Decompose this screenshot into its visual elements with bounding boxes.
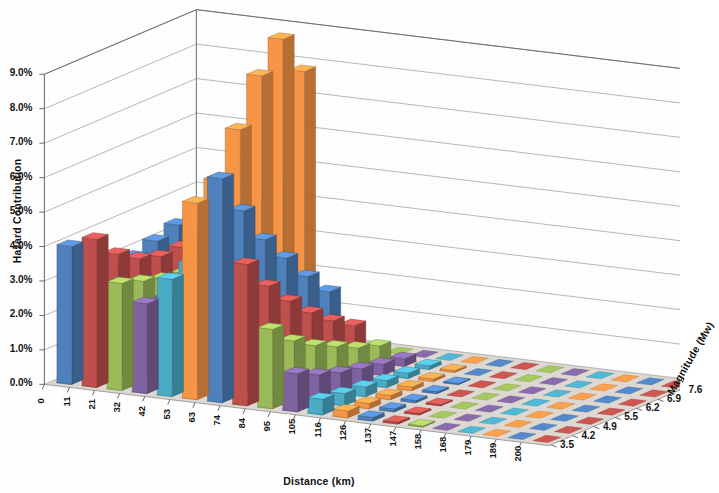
x-axis-tick <box>218 406 220 411</box>
column-bar <box>82 233 108 388</box>
z-axis-tick-label: 4.9 <box>603 421 617 432</box>
x-axis-title: Distance (km) <box>239 475 399 487</box>
bar-front-face <box>157 278 172 397</box>
x-axis-tick <box>92 390 94 395</box>
column-bar <box>57 240 83 384</box>
y-axis-tick-label: 6.0% <box>0 171 32 182</box>
x-axis-tick-label: 200 <box>512 446 523 462</box>
x-axis-tick-label: 105 <box>286 418 297 434</box>
bar-side-face <box>298 369 309 412</box>
y-axis-tick-label: 2.0% <box>0 308 32 319</box>
bar-side-face <box>172 275 183 397</box>
y-axis-tick-label: 3.0% <box>0 274 32 285</box>
x-axis-tick <box>243 409 245 414</box>
bar-side-face <box>72 242 83 385</box>
z-axis-tick-label: 5.5 <box>624 411 638 422</box>
z-axis-tick <box>615 417 621 419</box>
x-axis-tick-label: 74 <box>211 415 222 426</box>
column-bar <box>208 172 234 402</box>
x-axis-tick-label: 189 <box>487 443 498 459</box>
z-axis-tick <box>551 445 557 447</box>
bar-front-face <box>182 201 197 399</box>
y-axis-tick-label: 8.0% <box>0 102 32 113</box>
column-bar <box>283 367 309 411</box>
column-bar <box>258 323 284 409</box>
bar-side-face <box>122 279 133 391</box>
x-axis-tick <box>168 400 170 405</box>
x-axis-tick-label: 147 <box>386 431 397 447</box>
z-axis-tick-label: 7.6 <box>688 384 702 395</box>
bar-front-face <box>308 397 323 414</box>
bar-front-face <box>82 237 97 387</box>
x-axis-tick-label: 53 <box>160 408 171 419</box>
x-axis-tick-label: 168 <box>437 437 448 453</box>
y-axis-tick-label: 9.0% <box>0 67 32 78</box>
y-axis-tick-label: 5.0% <box>0 205 32 216</box>
bar-front-face <box>258 328 273 409</box>
bar-front-face <box>283 372 298 412</box>
x-axis-tick-label: 126 <box>336 425 347 441</box>
x-axis-tick <box>193 403 195 408</box>
column-bar <box>182 197 208 400</box>
bar-front-face <box>107 282 122 391</box>
x-axis-tick-label: 63 <box>186 412 197 423</box>
y-axis-tick-label: 4.0% <box>0 240 32 251</box>
z-axis-tick-label: 6.9 <box>667 393 681 404</box>
x-axis-tick-label: 84 <box>236 418 247 429</box>
z-axis-tick <box>594 427 600 429</box>
x-axis-tick-label: 95 <box>261 421 272 432</box>
x-axis-tick-label: 179 <box>462 440 473 456</box>
bar-side-face <box>197 198 208 399</box>
bar-side-face <box>223 174 234 403</box>
column-bar <box>233 258 259 406</box>
bar-front-face <box>57 245 72 385</box>
bar-front-face <box>208 177 223 403</box>
column-bar <box>157 273 183 397</box>
column-bar <box>132 297 158 393</box>
z-axis-tick <box>637 408 643 410</box>
y-axis-tick-label: 1.0% <box>0 343 32 354</box>
z-axis-tick <box>572 436 578 438</box>
x-axis-tick <box>143 397 145 402</box>
column-bar <box>107 277 133 390</box>
x-axis-tick-label: 158 <box>411 434 422 450</box>
bar-side-face <box>97 234 108 387</box>
z-axis-tick-label: 3.5 <box>560 439 574 450</box>
y-axis-tick-label: 7.0% <box>0 136 32 147</box>
x-axis-tick-label: 42 <box>135 405 146 416</box>
x-axis-tick <box>268 412 270 417</box>
x-axis-tick-label: 137 <box>361 428 372 444</box>
bar-side-face <box>147 299 158 393</box>
z-axis-tick <box>679 390 680 392</box>
x-axis-tick <box>118 393 120 398</box>
bar-side-face <box>248 260 259 406</box>
bar-front-face <box>132 302 147 393</box>
z-axis-tick-label: 4.2 <box>581 430 595 441</box>
x-axis-tick <box>67 387 69 392</box>
column-bar <box>308 393 334 415</box>
x-axis-tick <box>42 384 44 389</box>
x-axis-tick-label: 0 <box>35 399 46 404</box>
bar-front-face <box>233 263 248 406</box>
x-axis-tick-label: 116 <box>311 422 322 437</box>
z-axis-tick-label: 6.2 <box>646 402 660 413</box>
x-axis-tick-label: 11 <box>60 397 71 407</box>
x-axis-tick-label: 32 <box>110 402 121 413</box>
x-axis-tick-label: 21 <box>85 399 96 410</box>
bar-side-face <box>273 325 284 409</box>
y-axis-tick-label: 0.0% <box>0 377 32 388</box>
